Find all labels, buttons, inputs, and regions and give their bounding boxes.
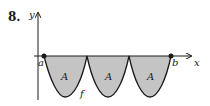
point-a-label: a bbox=[38, 57, 44, 68]
point-b-label: b bbox=[172, 57, 178, 68]
y-axis-label: y bbox=[28, 9, 35, 20]
region-label-2: A bbox=[104, 71, 112, 82]
region-label-1: A bbox=[60, 71, 68, 82]
problem-number: 8. bbox=[8, 10, 21, 24]
region-label-3: A bbox=[146, 71, 154, 82]
function-label: f bbox=[79, 88, 86, 99]
x-axis-label: x bbox=[194, 57, 200, 68]
area-diagram: 8. y x a b A A A f bbox=[0, 0, 210, 106]
